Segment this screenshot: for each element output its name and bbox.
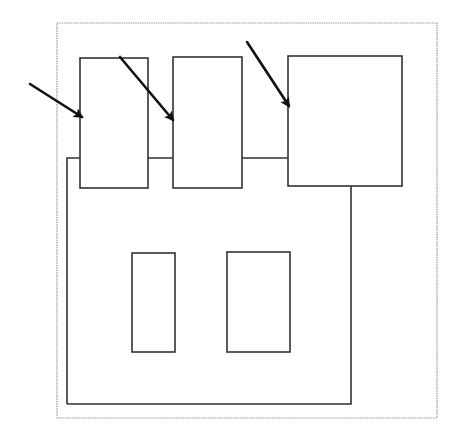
arrow-3-icon <box>247 42 289 106</box>
main-body-outline <box>67 158 351 404</box>
diagram-canvas <box>0 0 460 428</box>
block-2 <box>173 57 242 188</box>
inner-a <box>132 253 175 352</box>
top-blocks-group <box>80 56 402 188</box>
inner-blocks-group <box>132 252 290 352</box>
arrows-group <box>30 42 289 120</box>
inner-b <box>227 252 290 352</box>
block-3 <box>288 56 402 186</box>
arrow-1-icon <box>30 84 82 117</box>
